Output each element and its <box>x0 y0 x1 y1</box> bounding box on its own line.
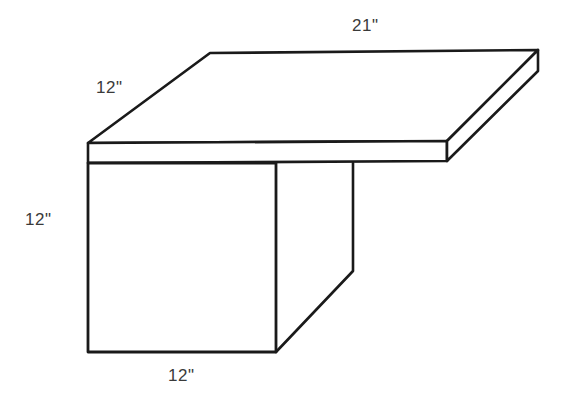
table-isometric-svg <box>0 0 562 402</box>
inner-panel-edge <box>276 163 353 352</box>
table-front-panel <box>88 163 276 352</box>
technical-drawing-figure: 21" 12" 12" 12" <box>0 0 562 402</box>
dimension-label-top-width: 21" <box>352 17 378 34</box>
dimension-label-top-depth: 12" <box>96 79 122 96</box>
dimension-label-height: 12" <box>25 211 51 228</box>
dimension-label-front-width: 12" <box>168 367 194 384</box>
tabletop-front-thickness <box>88 141 447 163</box>
